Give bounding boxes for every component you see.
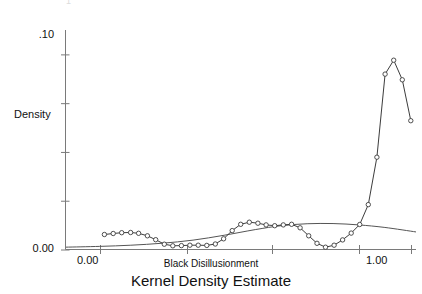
kde-data-point: [196, 243, 200, 247]
kde-data-point: [120, 231, 124, 235]
plot-canvas: [0, 0, 422, 294]
kde-data-point: [383, 72, 387, 76]
kde-data-point: [289, 222, 293, 226]
kde-data-point: [221, 237, 225, 241]
kde-data-point: [375, 155, 379, 159]
kde-data-point: [358, 222, 362, 226]
kde-data-point: [409, 119, 413, 123]
kde-data-point: [298, 226, 302, 230]
kde-data-point: [239, 222, 243, 226]
kde-data-point: [247, 220, 251, 224]
kde-data-point: [162, 242, 166, 246]
kernel-density-figure: 1 Density .10 0.00 0.00 1.00 Black Disil…: [0, 0, 422, 294]
kde-data-point: [281, 223, 285, 227]
kde-data-point: [205, 243, 209, 247]
kde-data-point: [188, 243, 192, 247]
cropped-top-text-fragment: 1: [66, 0, 72, 6]
kde-data-point: [366, 202, 370, 206]
kde-data-point: [273, 224, 277, 228]
kde-data-point: [136, 231, 140, 235]
kde-data-point: [102, 232, 106, 236]
kde-data-point: [349, 231, 353, 235]
kde-data-point: [392, 58, 396, 62]
y-axis-title: Density: [14, 108, 51, 120]
kde-polyline: [104, 60, 410, 247]
kde-data-point: [256, 221, 260, 225]
kde-data-point: [230, 228, 234, 232]
kde-data-point: [128, 230, 132, 234]
kde-data-point: [400, 78, 404, 82]
figure-caption: Kernel Density Estimate: [0, 272, 422, 289]
smooth-density-curve: [66, 223, 416, 247]
kde-data-point: [145, 234, 149, 238]
kde-data-point: [307, 234, 311, 238]
kde-data-point: [179, 243, 183, 247]
kde-data-point: [332, 243, 336, 247]
kde-data-point: [111, 231, 115, 235]
x-axis-title: Black Disillusionment: [0, 258, 422, 269]
kde-data-point: [171, 244, 175, 248]
kde-data-point: [213, 242, 217, 246]
kde-data-point: [340, 238, 344, 242]
y-tick-label-bottom: 0.00: [18, 242, 54, 254]
kde-data-point: [323, 245, 327, 249]
kde-data-point: [264, 223, 268, 227]
y-tick-label-top: .10: [26, 28, 54, 40]
kde-data-markers: [102, 58, 413, 249]
kde-data-point: [154, 238, 158, 242]
kde-data-point: [315, 241, 319, 245]
